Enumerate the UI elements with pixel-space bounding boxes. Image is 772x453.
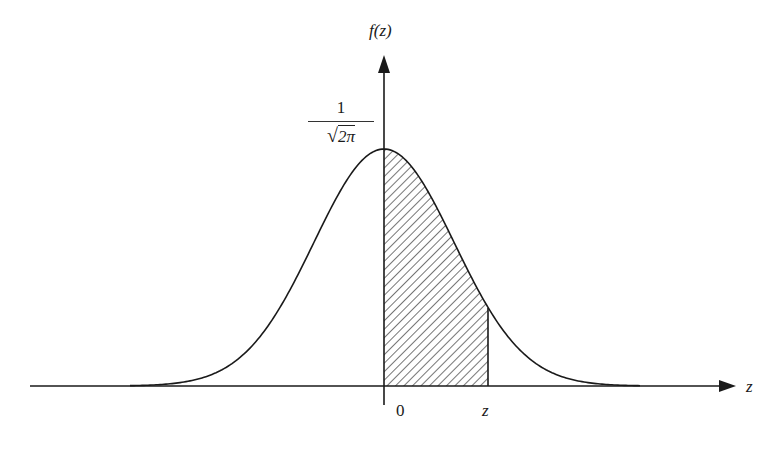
origin-label: 0 [396, 402, 405, 419]
peak-value-label: 1 √2π [306, 98, 376, 147]
peak-denominator: √2π [306, 124, 376, 147]
x-axis-arrow-icon [719, 380, 736, 392]
y-axis-arrow-icon [378, 55, 390, 73]
fraction-bar [308, 121, 374, 122]
y-axis-label: f(z) [369, 22, 392, 39]
z-marker-label: z [482, 402, 489, 419]
radical-icon: √ [327, 124, 338, 146]
radicand: 2π [338, 125, 355, 146]
x-axis-label: z [746, 378, 753, 395]
normal-curve-diagram [0, 0, 772, 453]
peak-numerator: 1 [306, 98, 376, 118]
shaded-area [384, 149, 488, 386]
